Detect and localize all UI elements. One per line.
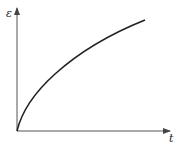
y-axis-label: ε <box>6 7 12 20</box>
strain-curve <box>17 20 145 131</box>
chart-canvas: ε t <box>0 0 181 150</box>
x-axis-label: t <box>169 132 174 145</box>
